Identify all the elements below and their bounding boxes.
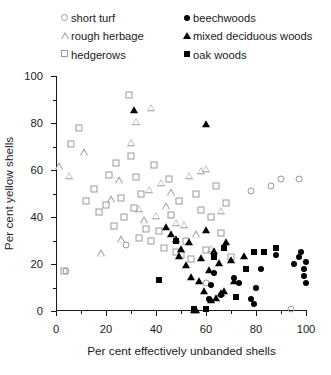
data-point xyxy=(213,183,220,190)
data-point xyxy=(150,162,157,169)
data-point xyxy=(103,202,110,209)
data-point xyxy=(75,124,82,131)
triangle-solid-icon xyxy=(180,26,193,44)
data-point xyxy=(173,238,179,244)
x-tick-label-100: 100 xyxy=(297,323,316,335)
y-axis-title: Per cent yellow shells xyxy=(2,76,16,311)
x-tick-40: 40 xyxy=(156,311,157,316)
legend-column-open-markers: short turf rough herbage hedgerows xyxy=(58,8,144,63)
scatter-plot-figure: short turf rough herbage hedgerows beech… xyxy=(0,0,331,375)
data-point xyxy=(175,197,182,204)
data-point xyxy=(123,242,130,249)
data-point xyxy=(193,190,200,197)
data-point xyxy=(208,282,214,288)
data-point xyxy=(157,179,165,186)
data-point xyxy=(227,256,235,263)
data-point xyxy=(127,139,135,146)
data-point xyxy=(55,162,63,169)
data-point xyxy=(115,177,123,184)
data-point xyxy=(288,305,295,312)
data-point xyxy=(197,254,205,261)
data-point xyxy=(182,261,190,268)
data-point xyxy=(258,266,264,272)
y-minor-tick-70 xyxy=(53,147,56,148)
data-point xyxy=(218,230,225,237)
data-point xyxy=(180,221,188,228)
data-point xyxy=(65,172,73,179)
y-tick-label-20: 20 xyxy=(31,258,43,270)
data-point xyxy=(221,245,227,251)
legend-label-oak-woods: oak woods xyxy=(193,48,247,60)
data-point xyxy=(185,172,193,179)
data-point xyxy=(268,183,275,190)
data-point xyxy=(192,231,200,238)
circle-open-icon xyxy=(58,8,71,26)
data-point xyxy=(83,197,90,204)
data-point xyxy=(175,252,183,259)
data-point xyxy=(203,306,209,312)
data-point xyxy=(168,211,175,218)
x-minor-tick-50 xyxy=(181,311,182,314)
data-point xyxy=(273,252,279,258)
data-point xyxy=(152,212,160,219)
data-point xyxy=(145,186,153,193)
data-point xyxy=(202,165,210,172)
x-tick-80: 80 xyxy=(256,311,257,316)
data-point xyxy=(147,104,155,111)
legend-item-short-turf: short turf xyxy=(58,8,144,26)
data-point xyxy=(148,237,155,244)
data-point xyxy=(132,118,140,125)
x-tick-60: 60 xyxy=(206,311,207,316)
data-point xyxy=(162,224,170,231)
data-point xyxy=(185,238,193,245)
data-point xyxy=(156,277,162,283)
data-point xyxy=(211,254,217,260)
data-point xyxy=(240,252,248,259)
y-tick-60: 60 xyxy=(51,170,56,171)
y-tick-label-100: 100 xyxy=(24,70,43,82)
data-point xyxy=(160,244,167,251)
data-point xyxy=(140,217,148,224)
data-point xyxy=(60,268,67,275)
circle-solid-icon xyxy=(180,8,193,26)
x-tick-20: 20 xyxy=(106,311,107,316)
data-point xyxy=(162,202,170,209)
chart-legend: short turf rough herbage hedgerows beech… xyxy=(58,8,326,64)
data-point xyxy=(191,306,197,312)
legend-label-hedgerows: hedgerows xyxy=(71,48,126,60)
data-point xyxy=(303,259,309,265)
y-minor-tick-30 xyxy=(53,241,56,242)
x-minor-tick-90 xyxy=(281,311,282,314)
data-point xyxy=(295,176,302,183)
y-tick-40: 40 xyxy=(51,217,56,218)
x-minor-tick-70 xyxy=(231,311,232,314)
data-point xyxy=(128,152,135,159)
data-point xyxy=(167,188,175,195)
data-point xyxy=(200,287,208,294)
data-point xyxy=(177,245,185,252)
data-point xyxy=(118,195,125,202)
data-point xyxy=(202,120,210,127)
data-point xyxy=(110,223,117,230)
y-tick-label-40: 40 xyxy=(31,211,43,223)
x-axis-title: Per cent effectively unbanded shells xyxy=(56,344,307,358)
data-point xyxy=(208,214,215,221)
x-tick-0: 0 xyxy=(56,311,57,316)
data-point xyxy=(90,185,97,192)
data-point xyxy=(278,176,285,183)
data-point xyxy=(198,206,205,213)
data-point xyxy=(195,278,203,285)
square-open-icon xyxy=(58,44,71,62)
data-point xyxy=(291,261,297,267)
data-point xyxy=(97,249,105,256)
data-point xyxy=(130,106,138,113)
y-minor-tick-90 xyxy=(53,100,56,101)
legend-column-solid-markers: beechwoods mixed deciduous woods oak woo… xyxy=(180,8,312,63)
data-point xyxy=(273,245,279,251)
y-minor-tick-10 xyxy=(53,288,56,289)
y-minor-tick-50 xyxy=(53,194,56,195)
x-tick-label-40: 40 xyxy=(150,323,162,335)
data-point xyxy=(251,301,257,307)
data-point xyxy=(251,249,257,255)
legend-item-hedgerows: hedgerows xyxy=(58,45,144,63)
